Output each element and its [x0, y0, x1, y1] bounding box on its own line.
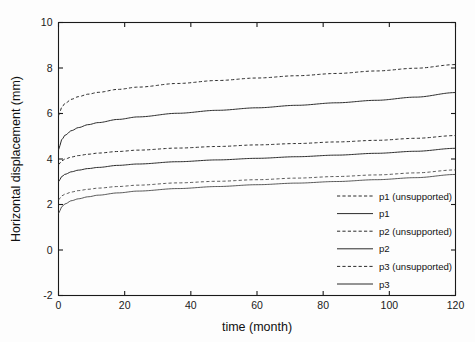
x-tick-label: 40	[185, 299, 197, 311]
x-tick-label: 120	[447, 299, 465, 311]
x-tick-label: 100	[381, 299, 399, 311]
y-tick-label: 8	[47, 62, 53, 74]
series-line	[59, 148, 456, 181]
plot-frame	[59, 23, 456, 296]
y-tick-label: 6	[47, 107, 53, 119]
legend-label: p2	[379, 243, 390, 254]
y-tick-label: 4	[47, 153, 53, 165]
x-tick-label: 80	[317, 299, 329, 311]
y-axis-title: Horizontal displacement (mm)	[9, 76, 23, 242]
series-line	[59, 136, 456, 165]
y-tick-label: -2	[43, 289, 52, 301]
legend-label: p1 (unsupported)	[379, 191, 452, 202]
y-tick-label: 2	[47, 198, 53, 210]
y-tick-label: 10	[41, 16, 53, 28]
legend-label: p1	[379, 208, 390, 219]
legend-label: p3 (unsupported)	[379, 261, 452, 272]
x-tick-label: 60	[251, 299, 263, 311]
line-chart: 020406080100120-20246810 p1 (unsupported…	[0, 0, 475, 342]
legend-label: p2 (unsupported)	[379, 226, 452, 237]
chart-figure: 020406080100120-20246810 p1 (unsupported…	[0, 0, 475, 342]
series-line	[59, 93, 456, 150]
y-tick-label: 0	[47, 244, 53, 256]
x-axis-title: time (month)	[222, 320, 292, 334]
chart-legend: p1 (unsupported)p1p2 (unsupported)p2p3 (…	[337, 191, 452, 290]
x-tick-label: 0	[56, 299, 62, 311]
legend-label: p3	[379, 279, 390, 290]
x-tick-label: 20	[119, 299, 131, 311]
